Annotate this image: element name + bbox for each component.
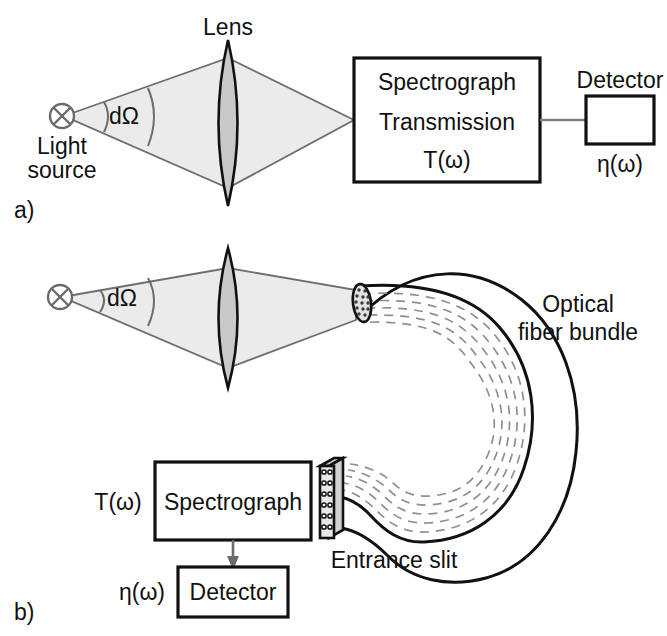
figure-root: Lens dΩ Light source Spectrograph Transm… (0, 0, 667, 636)
spectrograph-label-a: Spectrograph (378, 69, 516, 95)
panel-b: dΩ Optical fiber bundle T(ω) Spectrograp… (14, 248, 638, 625)
panel-label-b: b) (14, 599, 34, 625)
light-source-symbol-b (48, 285, 72, 309)
optics-diagram: Lens dΩ Light source Spectrograph Transm… (0, 0, 667, 636)
fiber-bundle-label-line1-b: Optical (542, 291, 614, 317)
detector-label-b: Detector (190, 579, 277, 605)
light-source-label-line1-a: Light (37, 133, 87, 159)
detector-efficiency-label-b: η(ω) (119, 579, 165, 605)
panel-label-a: a) (14, 197, 34, 223)
solid-angle-label-a: dΩ (109, 103, 139, 129)
spectrograph-label-b: Spectrograph (164, 489, 302, 515)
panel-a: Lens dΩ Light source Spectrograph Transm… (14, 14, 664, 223)
detector-efficiency-label-a: η(ω) (597, 151, 643, 177)
lens-label-a: Lens (203, 14, 253, 40)
detector-label-a: Detector (577, 67, 664, 93)
entrance-slit (320, 458, 343, 538)
light-source-symbol-a (50, 104, 74, 128)
beam-cone-b (62, 268, 356, 368)
detector-box-a[interactable] (586, 96, 654, 144)
transmission-function-label-b: T(ω) (94, 489, 141, 515)
fiber-bundle-label-line2-b: fiber bundle (518, 319, 638, 345)
transmission-label-a: Transmission (379, 109, 515, 135)
solid-angle-label-b: dΩ (107, 285, 137, 311)
fiber-strands (342, 293, 525, 532)
light-source-label-line2-a: source (27, 157, 96, 183)
entrance-slit-label-b: Entrance slit (331, 547, 458, 573)
transmission-function-label-a: T(ω) (423, 147, 470, 173)
